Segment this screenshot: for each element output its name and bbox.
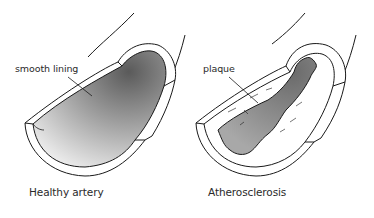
atherosclerosis-caption: Atherosclerosis [208,186,286,198]
healthy-artery [25,13,185,176]
smooth-lining-label: smooth lining [15,63,78,74]
diagram-canvas: smooth lining plaque Healthy artery Athe… [0,0,374,218]
healthy-artery-caption: Healthy artery [29,186,104,198]
diseased-artery [196,13,356,176]
plaque-label: plaque [203,63,235,74]
